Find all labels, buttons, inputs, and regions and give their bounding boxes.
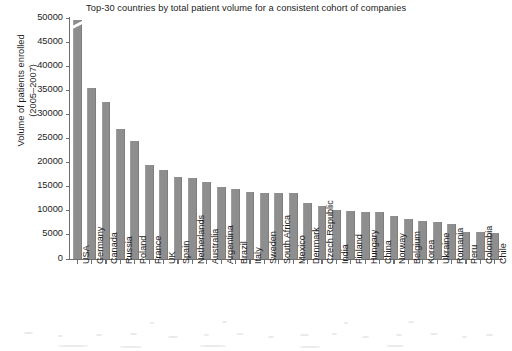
scan-speck [96, 334, 102, 336]
x-axis-tick-label: Hungary [369, 230, 379, 264]
scan-speck [130, 333, 137, 335]
scan-speck [222, 321, 227, 323]
scan-speck [332, 333, 337, 335]
y-axis-tick-mark [66, 234, 71, 235]
x-axis-tick-mark [307, 259, 308, 264]
x-axis-tick-mark [494, 259, 495, 264]
y-axis-tick-mark [66, 259, 71, 260]
x-axis-tick-label: Australia [210, 229, 220, 264]
x-axis-tick-label: Norway [397, 233, 407, 264]
y-axis-tick-label: 30000 [37, 108, 63, 118]
x-axis-tick-label: Russia [124, 236, 134, 264]
x-axis-tick-label: India [340, 244, 350, 264]
x-axis-tick-label: Spain [181, 241, 191, 264]
x-axis-tick-mark [249, 259, 250, 264]
x-axis-tick-label: Canada [109, 232, 119, 264]
x-axis-tick-mark [192, 259, 193, 264]
x-axis-tick-label: Korea [426, 240, 436, 264]
y-axis-tick-mark [66, 114, 71, 115]
x-axis-tick-mark [120, 259, 121, 264]
y-axis-title-line1: Volume of patients enrolled [15, 0, 27, 180]
y-axis-tick-mark [66, 186, 71, 187]
x-axis-tick-mark [393, 259, 394, 264]
x-axis-tick-mark [437, 259, 438, 264]
scan-speck [58, 335, 63, 337]
scan-speck [236, 333, 244, 335]
x-axis-tick-label: UK [167, 251, 177, 264]
x-axis-tick-label: Peru [469, 245, 479, 264]
x-axis-tick-label: Italy [253, 247, 263, 264]
x-axis-tick-label: Germany [95, 227, 105, 264]
y-axis-tick-label: 25000 [37, 132, 63, 142]
x-axis-tick-label: Belgium [412, 231, 422, 264]
x-axis-tick-mark [221, 259, 222, 264]
x-axis-tick-label: Sweden [268, 231, 278, 264]
x-axis-tick-label: USA [81, 245, 91, 264]
x-axis-tick-mark [278, 259, 279, 264]
x-axis-tick-label: Ukraine [441, 233, 451, 264]
x-axis-tick-label: Denmark [311, 227, 321, 264]
x-axis-tick-mark [163, 259, 164, 264]
x-axis-tick-label: Mexico [297, 235, 307, 264]
scan-speck [150, 322, 154, 324]
x-axis-tick-mark [321, 259, 322, 264]
x-axis-tick-mark [235, 259, 236, 264]
x-axis-tick-label: Poland [138, 236, 148, 264]
scan-speck [268, 336, 274, 338]
y-axis-tick-mark [66, 18, 71, 19]
x-axis-tick-mark [365, 259, 366, 264]
y-axis-tick-label: 50000 [37, 12, 63, 22]
x-axis-tick-mark [91, 259, 92, 264]
y-axis-tick-mark [66, 66, 71, 67]
y-axis-tick-mark [66, 42, 71, 43]
x-axis-tick-mark [422, 259, 423, 264]
x-axis-tick-label: France [153, 236, 163, 264]
x-axis-tick-mark [408, 259, 409, 264]
y-axis-tick-label: 0 [58, 253, 63, 263]
x-axis-tick-mark [350, 259, 351, 264]
x-axis-tick-label: Brazil [239, 241, 249, 264]
x-axis-tick-mark [379, 259, 380, 264]
scan-speck [204, 334, 209, 336]
x-axis-tick-label: Colombia [484, 226, 494, 264]
chart-figure: Top-30 countries by total patient volume… [0, 0, 512, 351]
scan-speck [486, 334, 493, 336]
scan-speck [386, 345, 404, 347]
scan-speck [462, 336, 467, 338]
x-axis-tick-label: South Africa [282, 215, 292, 264]
y-axis-tick-label: 10000 [37, 204, 63, 214]
x-axis-tick-label: Czech Republic [325, 200, 335, 264]
x-axis-tick-mark [293, 259, 294, 264]
y-axis-tick-mark [66, 90, 71, 91]
x-axis-tick-label: Chile [498, 243, 508, 264]
x-axis-tick-label: Finland [354, 234, 364, 264]
x-axis-tick-label: China [383, 240, 393, 264]
x-axis-tick-mark [134, 259, 135, 264]
x-axis-tick-mark [206, 259, 207, 264]
scan-speck [362, 336, 369, 338]
chart-title: Top-30 countries by total patient volume… [86, 3, 506, 13]
x-axis-tick-mark [149, 259, 150, 264]
scan-speck [168, 336, 178, 338]
x-axis-tick-mark [451, 259, 452, 264]
scan-speck [344, 322, 348, 324]
y-axis-tick-label: 20000 [37, 156, 63, 166]
y-axis-tick-mark [66, 210, 71, 211]
scan-speck [300, 346, 320, 348]
y-axis-tick-label: 15000 [37, 180, 63, 190]
y-axis-tick-label: 35000 [37, 84, 63, 94]
scan-speck [408, 321, 414, 323]
x-axis-tick-label: Romania [455, 228, 465, 264]
scan-speck [24, 332, 33, 334]
bar [73, 20, 82, 259]
scan-speck [300, 334, 309, 336]
scan-speck [200, 345, 226, 347]
x-axis-tick-mark [177, 259, 178, 264]
y-axis-title: Volume of patients enrolled (2005–2007) [15, 0, 40, 180]
scan-speck [396, 334, 402, 336]
x-axis-tick-mark [77, 259, 78, 264]
x-axis-tick-mark [105, 259, 106, 264]
scan-speck [120, 346, 142, 348]
y-axis-tick-label: 40000 [37, 60, 63, 70]
y-axis-tick-label: 5000 [42, 228, 63, 238]
